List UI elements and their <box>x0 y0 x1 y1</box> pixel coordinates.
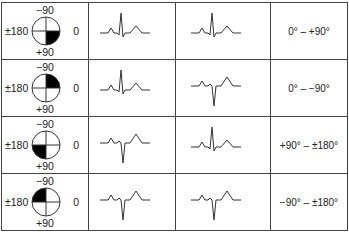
table-row: −90 ±180 0 +90 +90° – ±18 <box>2 117 348 174</box>
label-minus-90: −90 <box>36 176 54 187</box>
ecg-complex-lead-avf-icon <box>191 11 255 51</box>
label-minus-90: −90 <box>36 119 54 130</box>
hexaxial-quadrant: −90 ±180 0 +90 <box>2 117 88 173</box>
label-180: ±180 <box>5 26 28 37</box>
axis-diagram-cell: −90 ±180 0 +90 <box>2 174 89 231</box>
lead-i-cell <box>89 117 176 174</box>
axis-range-label: 0° – −90° <box>271 60 347 116</box>
ecg-complex-lead-i-icon <box>100 11 164 51</box>
hexaxial-quadrant: −90 ±180 0 +90 <box>2 174 88 230</box>
quadrant-circle-icon <box>31 130 61 160</box>
quadrant-circle-icon <box>31 16 61 46</box>
label-180: ±180 <box>5 83 28 94</box>
ecg-complex-lead-avf-icon <box>191 68 255 108</box>
quadrant-circle-icon <box>31 73 61 103</box>
axis-diagram-cell: −90 ±180 0 +90 <box>2 117 89 174</box>
quadrant-circle-icon <box>31 187 61 217</box>
axis-quadrant-table: −90 ±180 0 +90 0° – +90° <box>1 2 348 231</box>
axis-range-label: 0° – +90° <box>271 3 347 59</box>
lead-avf-cell <box>176 117 271 174</box>
lead-avf-cell <box>176 60 271 117</box>
label-0: 0 <box>73 140 79 151</box>
axis-diagram-cell: −90 ±180 0 +90 <box>2 60 89 117</box>
axis-range-label: +90° – ±180° <box>271 117 347 173</box>
label-plus-90: +90 <box>36 161 54 172</box>
ecg-complex-lead-i-icon <box>100 182 164 222</box>
ecg-complex-lead-i-icon <box>100 68 164 108</box>
axis-range-label: −90° – ±180° <box>271 174 347 230</box>
label-180: ±180 <box>5 197 28 208</box>
ecg-complex-lead-avf-icon <box>191 182 255 222</box>
lead-avf-cell <box>176 3 271 60</box>
ecg-complex-lead-avf-icon <box>191 125 255 165</box>
axis-range-cell: −90° – ±180° <box>271 174 348 231</box>
label-plus-90: +90 <box>36 218 54 229</box>
label-plus-90: +90 <box>36 47 54 58</box>
label-0: 0 <box>73 83 79 94</box>
label-minus-90: −90 <box>36 5 54 16</box>
hexaxial-quadrant: −90 ±180 0 +90 <box>2 60 88 116</box>
label-minus-90: −90 <box>36 62 54 73</box>
lead-i-cell <box>89 174 176 231</box>
ecg-complex-lead-i-icon <box>100 125 164 165</box>
axis-range-cell: 0° – +90° <box>271 3 348 60</box>
label-plus-90: +90 <box>36 104 54 115</box>
table-row: −90 ±180 0 +90 0° – +90° <box>2 3 348 60</box>
axis-range-cell: +90° – ±180° <box>271 117 348 174</box>
label-180: ±180 <box>5 140 28 151</box>
label-0: 0 <box>73 26 79 37</box>
lead-i-cell <box>89 3 176 60</box>
lead-i-cell <box>89 60 176 117</box>
axis-range-cell: 0° – −90° <box>271 60 348 117</box>
axis-diagram-cell: −90 ±180 0 +90 <box>2 3 89 60</box>
label-0: 0 <box>73 197 79 208</box>
lead-avf-cell <box>176 174 271 231</box>
table-row: −90 ±180 0 +90 −90° – ±18 <box>2 174 348 231</box>
hexaxial-quadrant: −90 ±180 0 +90 <box>2 3 88 59</box>
table-row: −90 ±180 0 +90 0° – −90° <box>2 60 348 117</box>
